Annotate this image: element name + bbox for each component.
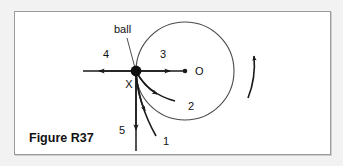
vector-2-shaft — [136, 71, 175, 101]
figure-container: ball X O 4 3 2 1 5 Figure R37 — [0, 0, 343, 166]
vector-3-label: 3 — [160, 48, 166, 60]
vector-1-label: 1 — [163, 135, 169, 147]
vector-2-label: 2 — [188, 100, 194, 112]
physics-diagram: ball X O 4 3 2 1 5 Figure R37 — [15, 12, 330, 154]
ball-dot — [131, 66, 142, 77]
center-o-label: O — [195, 65, 204, 77]
figure-panel: ball X O 4 3 2 1 5 Figure R37 — [14, 11, 331, 155]
figure-caption: Figure R37 — [29, 131, 94, 145]
ball-leader-line — [127, 38, 135, 68]
ball-label: ball — [114, 23, 131, 35]
vector-4-label: 4 — [103, 48, 109, 60]
vector-1-shaft — [136, 71, 156, 136]
point-x-label: X — [125, 78, 133, 90]
rotation-direction-arrow — [248, 56, 254, 98]
vector-5-label: 5 — [119, 124, 125, 136]
center-point-dot — [183, 69, 188, 74]
